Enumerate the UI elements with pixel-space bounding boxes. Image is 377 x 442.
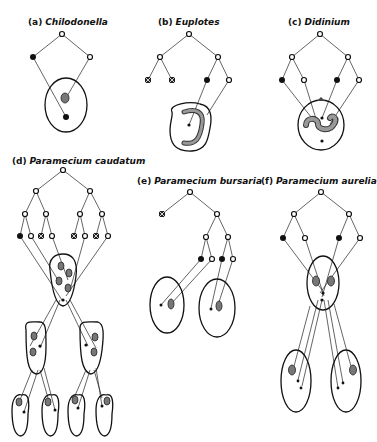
panel-e-paramecium-bursaria xyxy=(150,190,236,338)
panel-f-paramecium-aurelia xyxy=(280,190,363,413)
crossed-square-icon xyxy=(93,233,99,239)
panel-d-paramecium-caudatum xyxy=(12,168,113,437)
nuclear-division-diagram xyxy=(0,0,377,442)
cell-outline xyxy=(45,78,87,132)
crossed-square-icon xyxy=(145,77,151,83)
crossed-square-icon xyxy=(71,233,77,239)
micronucleus xyxy=(63,114,69,120)
crossed-square-icon xyxy=(169,77,175,83)
panel-c-didinium xyxy=(279,32,362,151)
panel-a-chilodonella xyxy=(30,32,93,133)
crossed-square-icon xyxy=(38,233,44,239)
panel-b-euplotes xyxy=(145,32,232,152)
crossed-square-icon xyxy=(159,211,165,217)
macronucleus xyxy=(61,93,69,103)
